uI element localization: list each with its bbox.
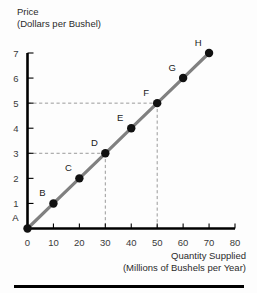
x-tick-label-20: 20 (74, 237, 85, 248)
x-tick-label-40: 40 (126, 237, 137, 248)
data-point-A[interactable] (23, 224, 31, 232)
x-axis-title-line2: (Millions of Bushels per Year) (123, 262, 246, 274)
point-label-C: C (65, 162, 72, 173)
point-label-A: A (12, 212, 19, 223)
y-tick-label-4: 4 (13, 123, 18, 134)
point-label-E: E (117, 112, 123, 123)
bottom-divider (14, 285, 244, 288)
supply-curve-chart: Price (Dollars per Bushel) 0102030405060… (0, 0, 257, 293)
x-tick-label-80: 80 (230, 237, 241, 248)
data-point-H[interactable] (205, 49, 213, 57)
x-tick-label-50: 50 (152, 237, 163, 248)
data-point-G[interactable] (179, 74, 187, 82)
y-tick-label-1: 1 (13, 198, 18, 209)
y-tick-label-3: 3 (13, 148, 18, 159)
x-axis-title-line1: Quantity Supplied (171, 250, 246, 261)
y-tick-label-2: 2 (13, 173, 18, 184)
data-point-D[interactable] (101, 149, 109, 157)
y-tick-label-6: 6 (13, 73, 18, 84)
data-point-C[interactable] (75, 174, 83, 182)
x-axis-title: Quantity Supplied (Millions of Bushels p… (123, 250, 246, 273)
data-point-B[interactable] (49, 199, 57, 207)
data-point-E[interactable] (127, 124, 135, 132)
point-label-H: H (195, 37, 202, 48)
x-tick-label-30: 30 (100, 237, 111, 248)
x-tick-label-60: 60 (178, 237, 189, 248)
point-label-F: F (143, 87, 149, 98)
point-label-G: G (168, 62, 175, 73)
x-tick-label-10: 10 (48, 237, 59, 248)
data-point-F[interactable] (153, 99, 161, 107)
point-label-B: B (39, 187, 45, 198)
x-tick-label-0: 0 (25, 237, 30, 248)
point-label-D: D (91, 137, 98, 148)
x-tick-label-70: 70 (204, 237, 215, 248)
y-tick-label-7: 7 (13, 48, 18, 59)
y-tick-label-5: 5 (13, 98, 18, 109)
